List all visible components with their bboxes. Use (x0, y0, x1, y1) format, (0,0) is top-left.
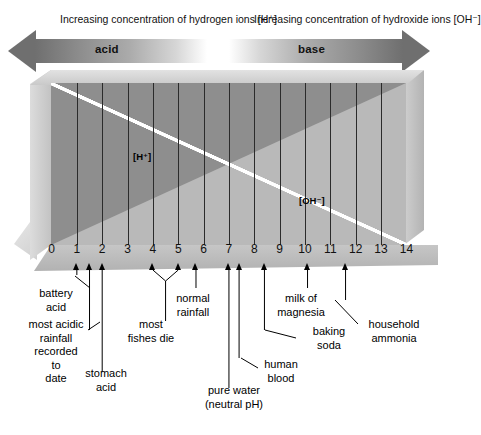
callout-vee-line (153, 270, 178, 281)
slab-right-face (404, 70, 426, 250)
callout-arrowhead-icon (175, 263, 181, 270)
axis-tick-label: 6 (200, 242, 207, 256)
callout-arrowhead-icon (149, 263, 155, 270)
front-tick-line (305, 83, 306, 245)
axis-tick-label: 3 (124, 242, 131, 256)
callout-label: stomach acid (70, 367, 142, 394)
front-tick-line (128, 83, 129, 245)
callout-arrowhead-icon (73, 263, 79, 270)
front-tick-line (77, 83, 78, 245)
axis-tick-label: 5 (175, 242, 182, 256)
axis-tick-label: 7 (226, 242, 233, 256)
callout-arrowhead-icon (86, 263, 92, 270)
front-tick-line (102, 83, 103, 245)
callout-arrowhead-icon (261, 263, 267, 270)
front-tick-line (330, 83, 331, 245)
front-tick-line (254, 83, 255, 245)
axis-tick-label: 4 (150, 242, 157, 256)
oh-ion-label: [OH⁻] (299, 195, 325, 206)
callout-arrowhead-icon (225, 263, 231, 270)
axis-tick-label: 13 (374, 242, 387, 256)
callout-arrowhead-icon (192, 263, 198, 270)
axis-tick-label: 9 (276, 242, 283, 256)
acid-arrow-shaft (35, 39, 207, 63)
front-tick-line (229, 83, 230, 245)
acid-caption: Increasing concentration of hydrogen ion… (60, 13, 277, 26)
callout-label: battery acid (20, 287, 92, 314)
front-tick-line (178, 83, 179, 245)
axis-tick-label: 2 (99, 242, 106, 256)
axis-tick-label: 8 (251, 242, 258, 256)
callout-arrowhead-icon (236, 263, 242, 270)
callout-label: milk of magnesia (258, 292, 344, 319)
slab-front-face: [H⁺] [OH⁻] (51, 83, 406, 245)
callout-label: normal rainfall (158, 292, 228, 319)
callout-label: household ammonia (352, 318, 436, 345)
callout-arrowhead-icon (304, 263, 310, 270)
callout-leader (265, 330, 296, 338)
h-ion-label: [H⁺] (133, 151, 151, 162)
base-label: base (298, 43, 325, 55)
axis-tick-label: 11 (324, 242, 336, 256)
acid-label: acid (95, 43, 119, 55)
callout-label: human blood (246, 358, 316, 385)
acid-arrow-head-icon (8, 30, 36, 72)
front-tick-line (280, 83, 281, 245)
callout-arrowhead-icon (342, 263, 348, 270)
front-tick-line (204, 83, 205, 245)
base-arrow-head-icon (402, 30, 430, 72)
axis-tick-label: 10 (298, 242, 311, 256)
callout-label: most fishes die (110, 318, 192, 345)
axis-tick-label: 1 (74, 242, 81, 256)
ph-slab: [H⁺] [OH⁻] (0, 70, 438, 265)
callout-label: pure water (neutral pH) (186, 384, 282, 411)
axis-tick-label: 12 (349, 242, 362, 256)
front-tick-line (153, 83, 154, 245)
axis-tick-label: 14 (400, 242, 413, 256)
callout-arrowhead-icon (99, 263, 105, 270)
front-tick-line (356, 83, 357, 245)
base-caption: Increasing concentration of hydroxide io… (254, 13, 481, 26)
front-tick-line (381, 83, 382, 245)
axis-tick-label: 0 (48, 242, 55, 256)
